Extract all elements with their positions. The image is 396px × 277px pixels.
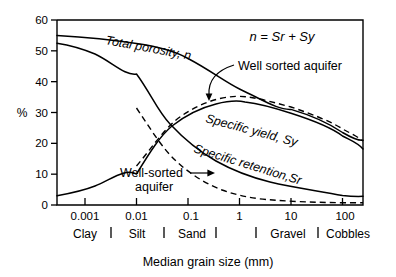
y-axis-title: %	[17, 106, 28, 120]
x-tick-label-10: 10	[285, 210, 298, 222]
curve-label-specific-yield: Specific yield, Sy	[204, 111, 300, 149]
x-axis-tick-labels: 0.001 0.01 0.1 1 10 100	[71, 210, 355, 222]
category-label-gravel: Gravel	[270, 227, 305, 241]
y-tick-label-0: 0	[42, 199, 48, 211]
category-labels: Clay Silt Sand Gravel Cobbles	[73, 227, 370, 241]
category-label-clay: Clay	[73, 227, 97, 241]
y-tick-label-50: 50	[35, 45, 48, 57]
x-tick-label-0001: 0.001	[71, 210, 100, 222]
curve-label-total-porosity: Total porosity, n	[104, 33, 192, 63]
leader-well-sorted-aquifer-top	[209, 65, 234, 95]
category-label-cobbles: Cobbles	[326, 227, 370, 241]
formula-annotation: n = Sr + Sy	[249, 29, 316, 44]
y-tick-label-60: 60	[35, 14, 48, 26]
y-tick-label-40: 40	[35, 76, 48, 88]
category-label-silt: Silt	[129, 227, 146, 241]
category-label-sand: Sand	[178, 227, 206, 241]
arrowhead-well-sorted-aquifer-bottom	[207, 170, 215, 177]
y-axis-tick-labels: 60 50 40 30 20 10 0	[35, 14, 48, 211]
x-tick-label-100: 100	[335, 210, 354, 222]
figure-container: 60 50 40 30 20 10 0 % 0.001 0.01 0.1 1 1…	[0, 0, 396, 277]
y-axis-ticks	[51, 20, 57, 205]
y-tick-label-10: 10	[35, 168, 48, 180]
y-tick-label-30: 30	[35, 107, 48, 119]
curve-label-specific-retention: Specific retention,Sr	[192, 141, 304, 187]
annotation-well-sorted-aquifer-top: Well sorted aquifer	[238, 59, 342, 73]
arrowhead-well-sorted-aquifer-top	[206, 93, 213, 101]
x-tick-label-001: 0.01	[125, 210, 147, 222]
x-tick-label-1: 1	[236, 210, 242, 222]
annotation-well-sorted-aquifer-line2: aquifer	[135, 180, 173, 194]
x-tick-label-01: 0.1	[183, 210, 199, 222]
y-tick-label-20: 20	[35, 137, 48, 149]
chart-svg: 60 50 40 30 20 10 0 % 0.001 0.01 0.1 1 1…	[0, 0, 396, 277]
x-axis-title: Median grain size (mm)	[143, 255, 274, 269]
annotation-well-sorted-aquifer-line1: Well-sorted	[120, 166, 183, 180]
